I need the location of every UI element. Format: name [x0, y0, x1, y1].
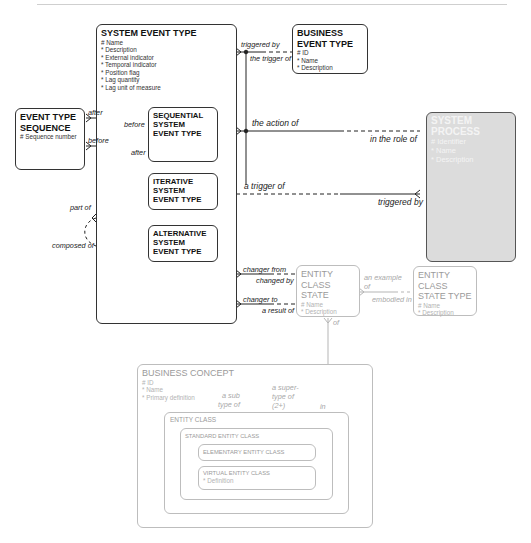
attribute: * Definition	[203, 477, 311, 485]
attribute: * Lag unit of measure	[101, 84, 232, 92]
entity-title: ELEMENTARY ENTITY CLASS	[203, 448, 311, 456]
attribute: * Name	[297, 57, 363, 65]
attribute: * Description	[297, 64, 363, 72]
entity-entity-class-state-type[interactable]: ENTITY CLASS STATE TYPE # Name * Descrip…	[413, 266, 477, 316]
attribute: * Primary definition	[142, 394, 368, 402]
rel-label-triggered-by: triggered by	[378, 197, 423, 207]
rel-label-after: after	[131, 148, 146, 157]
rel-label-a-trigger-of: a trigger of	[244, 181, 285, 191]
entity-title: ALTERNATIVE SYSTEM EVENT TYPE	[153, 229, 213, 256]
entity-virtual-entity-class[interactable]: VIRTUAL ENTITY CLASS * Definition	[198, 466, 316, 490]
attribute: # ID	[142, 379, 368, 387]
rel-label-in-the-role-of: in the role of	[370, 134, 417, 144]
rel-label-a-super: a super-	[272, 383, 299, 392]
entity-elementary-entity-class[interactable]: ELEMENTARY ENTITY CLASS	[198, 444, 316, 461]
attribute: * Description	[431, 155, 511, 164]
entity-title: SYSTEM EVENT TYPE	[101, 28, 232, 39]
rel-label-the-action-of: the action of	[252, 118, 298, 128]
rel-label-part-of: part of	[70, 203, 91, 212]
rel-label-an-example: an example	[364, 273, 402, 282]
entity-title: EVENT TYPE SEQUENCE	[20, 112, 80, 133]
entity-title: BUSINESS EVENT TYPE	[297, 28, 363, 49]
entity-alternative-system-event-type[interactable]: ALTERNATIVE SYSTEM EVENT TYPE	[148, 225, 218, 262]
attribute: * Name	[431, 146, 511, 155]
attribute: * External indicator	[101, 54, 232, 62]
rel-label-before: before	[124, 120, 145, 129]
rel-label-of: of	[333, 318, 339, 327]
rel-label-after: after	[88, 108, 103, 117]
entity-title: VIRTUAL ENTITY CLASS	[203, 469, 311, 477]
rel-label-a-sub: a sub	[222, 391, 240, 400]
attribute: # Name	[418, 302, 472, 310]
entity-title: ENTITY CLASS	[170, 416, 343, 424]
attribute: # Name	[301, 301, 355, 309]
entity-title: ENTITY CLASS STATE	[301, 269, 355, 301]
entity-entity-class-state[interactable]: ENTITY CLASS STATE # Name * Description	[296, 265, 360, 317]
rel-label-of: of	[364, 282, 370, 291]
entity-business-event-type[interactable]: BUSINESS EVENT TYPE # ID * Name * Descri…	[292, 24, 368, 74]
rel-label-changed-by: changed by	[256, 276, 294, 285]
attribute: # ID	[297, 49, 363, 57]
entity-title: SYSTEM PROCESS	[431, 116, 511, 137]
attribute: * Description	[101, 46, 232, 54]
rel-label-the-trigger-of: the trigger of	[250, 54, 291, 63]
entity-title: BUSINESS CONCEPT	[142, 368, 368, 379]
entity-sequential-system-event-type[interactable]: SEQUENTIAL SYSTEM EVENT TYPE	[148, 107, 218, 162]
rel-label-2-plus: (2+)	[272, 401, 285, 410]
attribute: * Temporal indicator	[101, 61, 232, 69]
attribute: * Position flag	[101, 69, 232, 77]
entity-title: STANDARD ENTITY CLASS	[185, 432, 328, 440]
attribute: # Sequence number	[20, 133, 80, 141]
rel-label-composed-of: composed of	[52, 241, 94, 250]
rel-label-type-of: type of	[272, 392, 294, 401]
rel-label-triggered-by: triggered by	[241, 40, 280, 49]
entity-title: ITERATIVE SYSTEM EVENT TYPE	[153, 177, 213, 204]
entity-title: SEQUENTIAL SYSTEM EVENT TYPE	[153, 111, 213, 138]
entity-title: ENTITY CLASS STATE TYPE	[418, 270, 472, 302]
entity-iterative-system-event-type[interactable]: ITERATIVE SYSTEM EVENT TYPE	[148, 173, 218, 210]
rel-label-before: before	[88, 136, 109, 145]
rel-label-type-of: type of	[218, 400, 240, 409]
rel-label-changer-to: changer to	[243, 295, 277, 304]
attribute: * Name	[142, 386, 368, 394]
attribute: # Name	[101, 39, 232, 47]
rel-label-in: in	[320, 402, 326, 411]
attribute: * Lag quantity	[101, 76, 232, 84]
rel-label-embodied-in: embodied in	[372, 295, 412, 304]
attribute: # Identifier	[431, 137, 511, 146]
attribute: * Description	[418, 309, 472, 317]
rel-label-changer-from: changer from	[243, 265, 286, 274]
attribute: * Description	[301, 308, 355, 316]
entity-event-type-sequence[interactable]: EVENT TYPE SEQUENCE # Sequence number	[15, 108, 85, 170]
entity-system-process[interactable]: SYSTEM PROCESS # Identifier * Name * Des…	[426, 112, 516, 262]
rel-label-a-result-of: a result of	[262, 306, 294, 315]
